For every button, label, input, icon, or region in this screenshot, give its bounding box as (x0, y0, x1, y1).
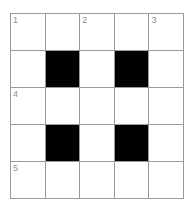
block-cell (115, 51, 149, 87)
clue-number: 1 (13, 14, 18, 26)
letter-cell[interactable] (80, 125, 114, 161)
letter-cell[interactable] (11, 51, 45, 87)
clue-number: 5 (13, 162, 18, 174)
grid-border-right (183, 13, 184, 199)
crossword-grid: 12345 (10, 13, 183, 198)
block-cell (46, 51, 80, 87)
letter-cell[interactable] (46, 162, 80, 198)
letter-cell[interactable]: 2 (80, 14, 114, 50)
letter-cell[interactable] (80, 51, 114, 87)
block-cell (46, 125, 80, 161)
crossword-puzzle: 12345 (0, 0, 190, 210)
clue-number: 3 (151, 14, 156, 26)
letter-cell[interactable] (149, 51, 183, 87)
letter-cell[interactable] (149, 88, 183, 124)
letter-cell[interactable] (115, 14, 149, 50)
letter-cell[interactable]: 5 (11, 162, 45, 198)
letter-cell[interactable]: 3 (149, 14, 183, 50)
letter-cell[interactable] (115, 162, 149, 198)
letter-cell[interactable] (46, 14, 80, 50)
letter-cell[interactable] (149, 162, 183, 198)
letter-cell[interactable]: 1 (11, 14, 45, 50)
clue-number: 4 (13, 88, 18, 100)
letter-cell[interactable]: 4 (11, 88, 45, 124)
letter-cell[interactable] (46, 88, 80, 124)
letter-cell[interactable] (149, 125, 183, 161)
grid-border-bottom (10, 198, 184, 199)
block-cell (115, 125, 149, 161)
clue-number: 2 (82, 14, 87, 26)
letter-cell[interactable] (115, 88, 149, 124)
letter-cell[interactable] (80, 88, 114, 124)
letter-cell[interactable] (11, 125, 45, 161)
letter-cell[interactable] (80, 162, 114, 198)
